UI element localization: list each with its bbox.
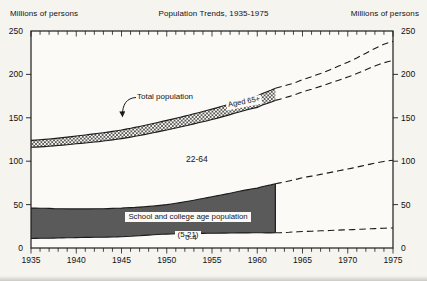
- bottom-axis-tick-label: 1965: [293, 255, 312, 265]
- bottom-axis-tick-label: 1940: [67, 255, 86, 265]
- bottom-axis-tick-label: 1935: [22, 255, 41, 265]
- right-axis-tick-label: 250: [401, 26, 415, 36]
- bottom-axis-tick-label: 1960: [248, 255, 267, 265]
- right-axis-tick-label: 100: [401, 156, 415, 166]
- bottom-axis-tick-label: 1950: [157, 255, 176, 265]
- age-22-64-region-label: 22-64: [186, 155, 208, 165]
- left-axis-tick-label: 200: [9, 69, 23, 79]
- left-axis-tick-label: 0: [18, 243, 23, 253]
- chart-page: Millions of persons Population Trends, 1…: [0, 0, 427, 281]
- age-0-4-band-label: 0-4: [176, 234, 206, 243]
- right-axis-tick-label: 200: [401, 69, 415, 79]
- school-age-band-label-line1: School and college age population: [125, 212, 250, 222]
- bottom-axis-tick-label: 1970: [338, 255, 357, 265]
- total-population-label: Total population: [137, 92, 193, 101]
- bottom-axis-tick-label: 1955: [203, 255, 222, 265]
- left-axis-tick-label: 150: [9, 113, 23, 123]
- left-axis-tick-label: 250: [9, 26, 23, 36]
- right-axis-tick-label: 50: [401, 200, 411, 210]
- left-axis-tick-label: 100: [9, 156, 23, 166]
- page-edge-shading: [0, 276, 427, 281]
- bottom-axis-tick-label: 1945: [112, 255, 131, 265]
- right-axis-tick-label: 150: [401, 113, 415, 123]
- right-axis-tick-label: 0: [401, 243, 406, 253]
- left-axis-tick-label: 50: [14, 200, 24, 210]
- bottom-axis-tick-label: 1975: [384, 255, 403, 265]
